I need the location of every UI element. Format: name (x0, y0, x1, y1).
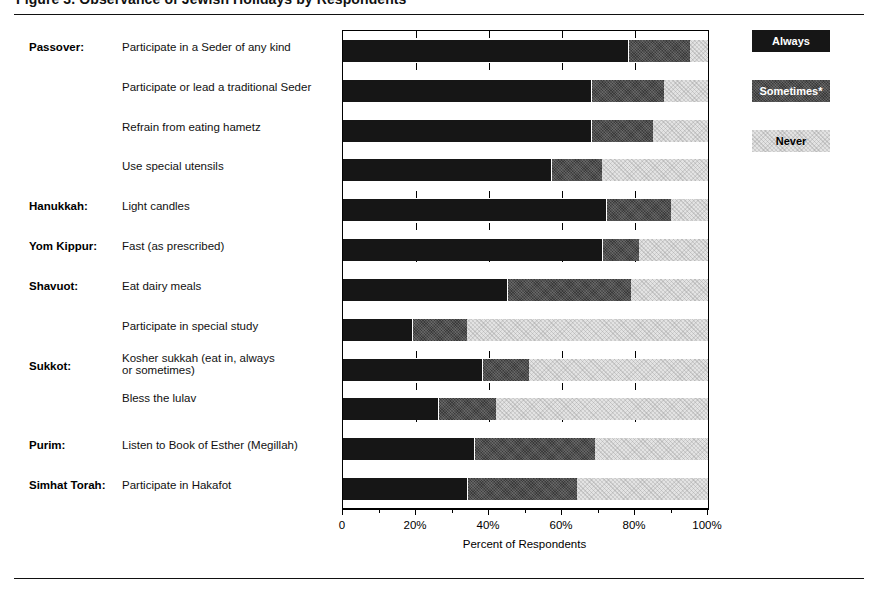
bar-segment-always (343, 40, 628, 62)
practice-label: Participate in Hakafot (122, 479, 231, 491)
bar-segment-sometimes (438, 398, 496, 420)
bar-row (343, 359, 708, 381)
bar-segment-never (467, 319, 708, 341)
bar-segment-always (343, 199, 606, 221)
x-tick-label-0: 0 (339, 519, 345, 531)
x-tick-minor-10 (379, 508, 380, 513)
bar-segment-always (343, 438, 474, 460)
bar-segment-sometimes (482, 359, 529, 381)
bar-segment-always (343, 159, 551, 181)
bar-segment-never (664, 80, 708, 102)
bar-segment-sometimes (551, 159, 602, 181)
practice-label: Participate or lead a traditional Seder (122, 81, 311, 93)
bar-row (343, 438, 708, 460)
figure-top-rule (14, 14, 864, 15)
x-tick-label-40: 40% (476, 519, 499, 531)
practice-label: Bless the lulav (122, 392, 196, 404)
bar-row (343, 239, 708, 261)
x-tick-label-100: 100% (692, 519, 721, 531)
bar-row (343, 159, 708, 181)
bar-segment-always (343, 398, 438, 420)
bar-segment-sometimes (591, 80, 664, 102)
bar-segment-sometimes (628, 40, 690, 62)
bar-segment-never (690, 40, 708, 62)
x-tick-label-80: 80% (622, 519, 645, 531)
legend-item-always[interactable]: Always (752, 30, 830, 52)
figure-bottom-rule (14, 578, 864, 579)
holiday-label: Sukkot: (29, 360, 71, 372)
practice-label: Light candles (122, 200, 190, 212)
x-tick-minor-50 (525, 508, 526, 513)
holiday-label: Shavuot: (29, 280, 78, 292)
holiday-label: Simhat Torah: (29, 479, 105, 491)
x-tick-minor-70 (598, 508, 599, 513)
bar-row (343, 120, 708, 142)
bar-segment-sometimes (591, 120, 653, 142)
bar-segment-sometimes (474, 438, 594, 460)
holiday-label: Hanukkah: (29, 200, 88, 212)
bar-row (343, 398, 708, 420)
bar-segment-sometimes (412, 319, 467, 341)
x-tick-0 (342, 508, 343, 515)
bar-row (343, 478, 708, 500)
legend-item-never[interactable]: Never (752, 130, 830, 152)
bar-row (343, 199, 708, 221)
bar-row (343, 279, 708, 301)
x-tick-minor-30 (452, 508, 453, 513)
bar-segment-sometimes (602, 239, 639, 261)
practice-label: Participate in special study (122, 320, 258, 332)
bar-row (343, 80, 708, 102)
practice-label: Use special utensils (122, 160, 224, 172)
bar-segment-never (671, 199, 708, 221)
row-label-column: Passover:Participate in a Seder of any k… (0, 30, 336, 508)
bar-segment-never (496, 398, 708, 420)
x-axis-title: Percent of Respondents (342, 538, 707, 550)
x-tick-60 (561, 508, 562, 515)
practice-label: Participate in a Seder of any kind (122, 41, 291, 53)
bar-segment-always (343, 359, 482, 381)
bar-segment-always (343, 239, 602, 261)
bar-segment-sometimes (606, 199, 672, 221)
chart-legend: Always Sometimes* Never (752, 30, 864, 170)
x-tick-40 (488, 508, 489, 515)
legend-item-sometimes[interactable]: Sometimes* (752, 80, 830, 102)
practice-label: Refrain from eating hametz (122, 121, 261, 133)
bar-segment-sometimes (467, 478, 577, 500)
x-tick-100 (707, 508, 708, 515)
practice-label: Fast (as prescribed) (122, 240, 224, 252)
holiday-label: Passover: (29, 41, 84, 53)
practice-label: Listen to Book of Esther (Megillah) (122, 439, 298, 451)
x-tick-80 (634, 508, 635, 515)
bar-segment-always (343, 478, 467, 500)
bar-row (343, 319, 708, 341)
bar-segment-never (639, 239, 708, 261)
bar-segment-never (653, 120, 708, 142)
bar-segment-never (529, 359, 708, 381)
bar-row (343, 40, 708, 62)
holiday-label: Purim: (29, 439, 65, 451)
bar-segment-never (595, 438, 708, 460)
practice-label: Kosher sukkah (eat in, alwaysor sometime… (122, 352, 337, 377)
bar-segment-never (577, 478, 708, 500)
bar-segment-sometimes (507, 279, 631, 301)
holiday-label: Yom Kippur: (29, 240, 97, 252)
bar-segment-always (343, 319, 412, 341)
x-tick-label-60: 60% (549, 519, 572, 531)
bar-segment-always (343, 120, 591, 142)
bar-segment-always (343, 80, 591, 102)
bar-segment-never (602, 159, 708, 181)
chart-plot-area (342, 30, 709, 510)
x-tick-minor-90 (671, 508, 672, 513)
bar-segment-never (631, 279, 708, 301)
x-tick-label-20: 20% (403, 519, 426, 531)
x-tick-20 (415, 508, 416, 515)
figure-title: Figure 3. Observance of Jewish Holidays … (16, 0, 836, 9)
practice-label: Eat dairy meals (122, 280, 201, 292)
bar-segment-always (343, 279, 507, 301)
